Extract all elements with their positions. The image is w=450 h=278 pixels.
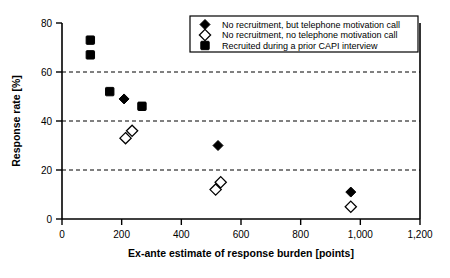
y-axis-title: Response rate [%]: [10, 75, 22, 167]
data-point-s0-0: [119, 94, 129, 104]
x-tick-label-400: 400: [173, 229, 190, 240]
scatter-plot: 02040608002004006008001,0001,200Ex-ante …: [0, 0, 450, 278]
legend-marker-2: [201, 41, 209, 49]
chart-container: 02040608002004006008001,0001,200Ex-ante …: [0, 0, 450, 278]
data-point-s2-1: [86, 51, 94, 59]
x-tick-label-1000: 1,000: [348, 229, 373, 240]
data-point-s2-0: [86, 36, 94, 44]
x-tick-label-600: 600: [233, 229, 250, 240]
x-tick-label-200: 200: [113, 229, 130, 240]
data-point-s2-3: [138, 102, 146, 110]
y-tick-label-20: 20: [41, 165, 53, 176]
data-point-s1-4: [345, 201, 356, 212]
x-tick-label-1200: 1,200: [407, 229, 432, 240]
y-tick-label-60: 60: [41, 67, 53, 78]
x-axis-title: Ex-ante estimate of response burden [poi…: [128, 247, 354, 259]
data-point-s0-1: [213, 141, 223, 151]
legend-label-2: Recruited during a prior CAPI interview: [222, 41, 378, 51]
x-tick-label-0: 0: [59, 229, 65, 240]
data-point-s0-2: [346, 187, 356, 197]
y-tick-label-40: 40: [41, 116, 53, 127]
y-tick-label-0: 0: [46, 214, 52, 225]
x-tick-label-800: 800: [292, 229, 309, 240]
data-point-s2-2: [106, 87, 114, 95]
legend-label-0: No recruitment, but telephone motivation…: [222, 20, 400, 30]
legend-label-1: No recruitment, no telephone motivation …: [222, 30, 398, 40]
y-tick-label-80: 80: [41, 18, 53, 29]
